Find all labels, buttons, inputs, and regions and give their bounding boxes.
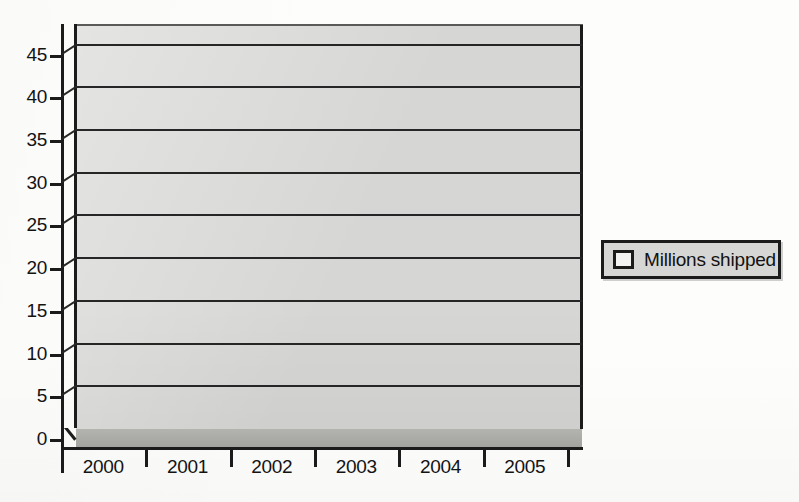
plot-floor-front-edge [61, 447, 583, 450]
x-axis-label-2004: 2004 [398, 456, 482, 478]
gridline-10 [76, 343, 582, 345]
y-tick-35 [50, 140, 63, 143]
plot-top-border [76, 24, 583, 26]
y-tick-15 [50, 311, 63, 314]
gridline-connector-10 [62, 343, 78, 354]
y-axis-label-wrap-0: 0 [0, 428, 47, 450]
plot-floor [76, 429, 582, 448]
chart-page: 051015202530354045 200020012002200320042… [0, 0, 799, 502]
y-axis-label-wrap-10: 10 [0, 343, 47, 365]
gridline-connector-30 [62, 172, 78, 183]
gridline-30 [76, 172, 582, 174]
y-axis-label-wrap-25: 25 [0, 214, 47, 236]
y-axis-label-45: 45 [3, 44, 47, 66]
y-axis-label-15: 15 [3, 300, 47, 322]
y-axis-label-wrap-15: 15 [0, 300, 47, 322]
y-axis-label-wrap-20: 20 [0, 257, 47, 279]
chart-legend[interactable]: Millions shipped [601, 240, 781, 279]
bar-chart: 051015202530354045 200020012002200320042… [0, 0, 600, 502]
y-axis-label-wrap-30: 30 [0, 172, 47, 194]
gridline-5 [76, 385, 582, 387]
y-axis-label-wrap-5: 5 [0, 385, 47, 407]
y-axis-label-30: 30 [3, 172, 47, 194]
y-axis-label-5: 5 [3, 385, 47, 407]
y-tick-20 [50, 268, 63, 271]
x-axis-label-2000: 2000 [61, 456, 145, 478]
gridline-40 [76, 86, 582, 88]
gridline-connector-40 [62, 86, 78, 97]
legend-label: Millions shipped [644, 249, 776, 271]
x-axis-label-2003: 2003 [314, 456, 398, 478]
gridline-connector-35 [62, 129, 78, 140]
gridline-connector-20 [62, 257, 78, 268]
legend-swatch-icon [613, 250, 634, 269]
gridline-25 [76, 214, 582, 216]
y-axis-label-35: 35 [3, 129, 47, 151]
y-tick-25 [50, 225, 63, 228]
gridline-connector-5 [62, 385, 78, 396]
y-axis-label-20: 20 [3, 257, 47, 279]
x-axis-label-2001: 2001 [145, 456, 229, 478]
y-axis-label-25: 25 [3, 214, 47, 236]
x-axis-label-2005: 2005 [483, 456, 567, 478]
y-tick-0 [50, 439, 63, 442]
y-tick-30 [50, 183, 63, 186]
y-axis-label-40: 40 [3, 86, 47, 108]
gridline-15 [76, 300, 582, 302]
x-axis-label-2002: 2002 [230, 456, 314, 478]
y-axis-label-wrap-45: 45 [0, 44, 47, 66]
gridline-connector-15 [62, 300, 78, 311]
y-axis-label-0: 0 [3, 428, 47, 450]
x-tick-6 [567, 450, 570, 467]
gridline-connector-25 [62, 214, 78, 225]
y-tick-10 [50, 354, 63, 357]
y-axis-label-wrap-40: 40 [0, 86, 47, 108]
gridline-20 [76, 257, 582, 259]
y-axis-label-10: 10 [3, 343, 47, 365]
gridline-45 [76, 44, 582, 46]
y-axis-label-wrap-35: 35 [0, 129, 47, 151]
gridline-35 [76, 129, 582, 131]
y-tick-40 [50, 97, 63, 100]
y-tick-5 [50, 396, 63, 399]
gridline-connector-45 [62, 44, 78, 55]
y-tick-45 [50, 55, 63, 58]
y-axis-spine-inner [74, 24, 77, 428]
